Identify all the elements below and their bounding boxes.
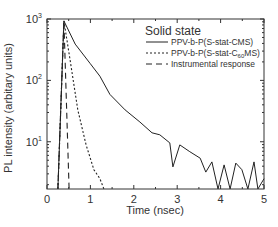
x-tick-label: 5	[261, 193, 267, 205]
x-axis-label: Time (nsec)	[126, 204, 184, 216]
y-tick-label: 103	[26, 12, 42, 25]
x-tick-label: 0	[44, 193, 50, 205]
legend-entries: PPV-b-P(S-stat-CMS)PPV-b-P(S-stat-C60MS)…	[146, 37, 260, 69]
legend: Solid state PPV-b-P(S-stat-CMS)PPV-b-P(S…	[145, 24, 260, 69]
legend-title: Solid state	[145, 24, 201, 38]
y-axis-label: PL intensity (arbitary units)	[2, 43, 14, 173]
legend-label: Instrumental response	[171, 59, 255, 69]
x-tick-label: 1	[87, 193, 93, 205]
y-tick-labels: 101102103	[26, 12, 42, 148]
legend-label: PPV-b-P(S-stat-C60MS)	[171, 48, 260, 59]
legend-label: PPV-b-P(S-stat-CMS)	[171, 37, 253, 47]
y-tick-label: 102	[26, 73, 42, 86]
y-tick-label: 101	[26, 135, 42, 148]
x-tick-label: 4	[218, 193, 224, 205]
pl-decay-chart: 012345 101102103 Time (nsec) PL intensit…	[0, 0, 278, 227]
